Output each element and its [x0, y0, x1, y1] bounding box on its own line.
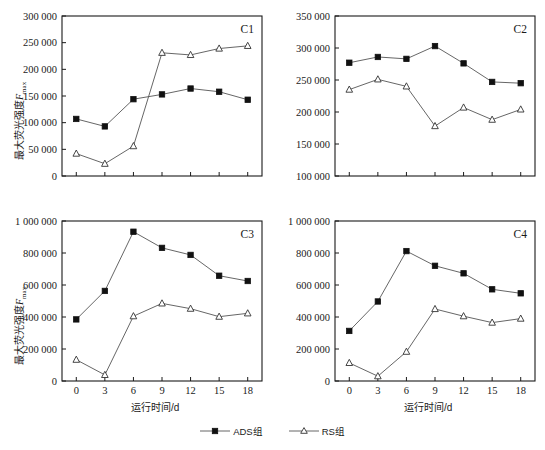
y-tick-label: 100 000 — [296, 171, 330, 182]
data-point-ads — [159, 92, 164, 97]
legend-marker-open-triangle-icon — [289, 425, 319, 437]
x-tick-label: 3 — [102, 385, 107, 396]
data-point-rs — [375, 76, 382, 82]
x-tick-label: 18 — [242, 385, 253, 396]
data-point-ads — [102, 288, 107, 293]
x-tick-label: 0 — [74, 385, 79, 396]
data-point-ads — [347, 328, 352, 333]
data-point-ads — [131, 229, 136, 234]
x-tick-label: 15 — [214, 385, 225, 396]
panel-title-c1: C1 — [241, 23, 255, 35]
data-point-ads — [518, 81, 523, 86]
data-point-ads — [489, 287, 494, 292]
x-tick-label: 0 — [347, 385, 352, 396]
panel-title-c3: C3 — [241, 228, 255, 240]
x-axis-label-c3: 运行时间/d — [131, 399, 179, 414]
series-line-rs — [76, 46, 247, 164]
data-point-ads — [188, 252, 193, 257]
data-point-ads — [245, 278, 250, 283]
x-tick-label: 9 — [432, 385, 437, 396]
data-point-rs — [375, 373, 382, 379]
data-point-rs — [460, 104, 467, 110]
data-point-ads — [518, 291, 523, 296]
y-axis-label-c1: 最大荧光强度Fmax — [11, 82, 28, 160]
chart-panel-c4: 0200 000400 000600 000800 0001 000 00003… — [273, 207, 545, 412]
data-point-rs — [130, 143, 137, 149]
data-point-rs — [130, 313, 137, 319]
series-line-rs — [349, 79, 520, 126]
x-axis-label-c4: 运行时间/d — [404, 399, 452, 414]
x-tick-label: 18 — [515, 385, 526, 396]
y-tick-label: 600 000 — [296, 280, 330, 291]
panel-title-c4: C4 — [514, 228, 528, 240]
data-point-rs — [517, 315, 524, 321]
y-axis-label-subscript: max — [20, 287, 28, 299]
legend-marker-filled-square-icon — [200, 425, 230, 437]
y-axis-label-text: 最大荧光强度 — [14, 305, 25, 365]
y-tick-label: 50 000 — [28, 144, 57, 155]
y-tick-label: 150 000 — [296, 139, 330, 150]
x-tick-label: 12 — [185, 385, 196, 396]
chart-panel-c2: 100 000150 000200 000250 000300 000350 0… — [273, 2, 545, 207]
data-point-ads — [347, 60, 352, 65]
data-point-ads — [375, 54, 380, 59]
legend-entry-ads: ADS组 — [200, 424, 263, 438]
data-point-ads — [216, 89, 221, 94]
data-point-ads — [245, 97, 250, 102]
figure-panel-grid: 050 000100 000150 000200 000250 000300 0… — [0, 0, 545, 450]
x-tick-label: 6 — [404, 385, 409, 396]
y-axis-label-symbol: F — [14, 299, 25, 305]
y-tick-label: 800 000 — [296, 248, 330, 259]
series-line-ads — [349, 46, 520, 83]
y-tick-label: 1 000 000 — [15, 216, 57, 227]
series-line-rs — [76, 303, 247, 375]
y-tick-label: 400 000 — [296, 312, 330, 323]
y-axis-label-c3: 最大荧光强度Fmax — [11, 287, 28, 365]
y-tick-label: 250 000 — [23, 37, 57, 48]
data-point-ads — [432, 263, 437, 268]
data-point-ads — [489, 79, 494, 84]
y-tick-label: 0 — [52, 376, 57, 387]
legend-label: RS组 — [322, 426, 345, 437]
figure-legend: ADS组RS组 — [0, 424, 545, 438]
y-tick-label: 200 000 — [296, 107, 330, 118]
data-point-ads — [432, 43, 437, 48]
x-tick-label: 15 — [487, 385, 498, 396]
data-point-ads — [404, 56, 409, 61]
y-tick-label: 200 000 — [23, 64, 57, 75]
data-point-ads — [461, 271, 466, 276]
data-point-rs — [432, 305, 439, 311]
y-tick-label: 800 000 — [23, 248, 57, 259]
data-point-rs — [159, 49, 166, 55]
data-point-ads — [216, 273, 221, 278]
data-point-rs — [244, 310, 251, 316]
data-point-rs — [517, 106, 524, 112]
y-axis-label-symbol: F — [14, 94, 25, 100]
data-point-ads — [159, 245, 164, 250]
data-point-ads — [74, 116, 79, 121]
y-tick-label: 0 — [52, 171, 57, 182]
data-point-rs — [73, 356, 80, 362]
data-point-ads — [131, 97, 136, 102]
data-point-rs — [346, 359, 353, 365]
y-tick-label: 300 000 — [23, 11, 57, 22]
data-point-rs — [73, 150, 80, 156]
y-tick-label: 350 000 — [296, 11, 330, 22]
x-tick-label: 3 — [375, 385, 380, 396]
y-axis-label-subscript: max — [20, 82, 28, 94]
y-tick-label: 1 000 000 — [288, 216, 330, 227]
data-point-rs — [159, 300, 166, 306]
data-point-ads — [375, 299, 380, 304]
y-tick-label: 250 000 — [296, 75, 330, 86]
series-line-rs — [349, 309, 520, 376]
legend-entry-rs: RS组 — [289, 424, 345, 438]
data-point-rs — [102, 371, 109, 377]
legend-label: ADS组 — [233, 426, 263, 437]
data-point-ads — [461, 61, 466, 66]
y-tick-label: 300 000 — [296, 43, 330, 54]
data-point-rs — [244, 42, 251, 48]
x-tick-label: 6 — [131, 385, 136, 396]
y-tick-label: 0 — [325, 376, 330, 387]
data-point-ads — [74, 317, 79, 322]
y-tick-label: 200 000 — [296, 344, 330, 355]
